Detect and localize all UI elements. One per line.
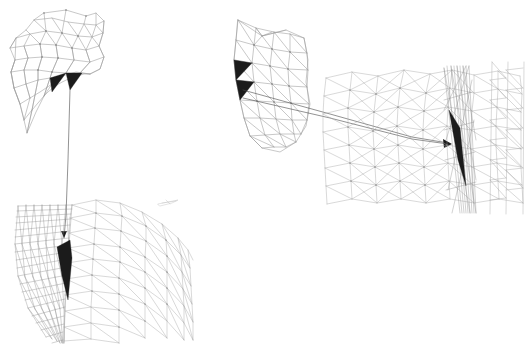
figure-background (0, 0, 528, 344)
figure-root (0, 0, 528, 344)
mesh-figure-canvas (0, 0, 528, 344)
